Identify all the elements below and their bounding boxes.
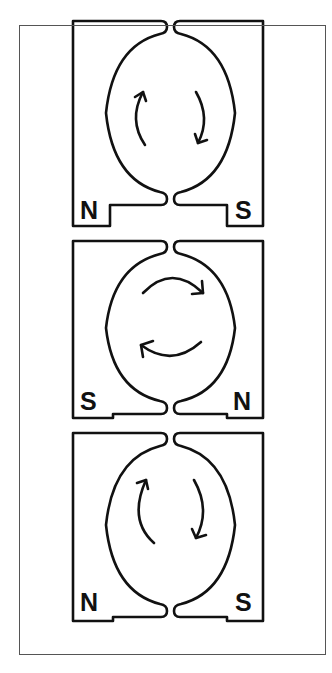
stage2-left-label: S xyxy=(80,387,97,415)
stage3-right-label: S xyxy=(235,588,252,616)
stage3-arrow-down xyxy=(194,480,203,538)
stage3-left-label: N xyxy=(80,588,98,616)
stage2-right-label: N xyxy=(233,387,251,415)
stage2-arrow-right xyxy=(143,278,203,293)
stage1-arrow-down xyxy=(196,92,204,143)
stage1-left-label: N xyxy=(80,196,98,224)
diagram-border xyxy=(20,26,326,655)
stage1-arrow-up xyxy=(136,92,145,145)
stage2-arrow-left xyxy=(141,342,201,356)
stage1-right-label: S xyxy=(235,196,252,224)
motor-diagram: N S S N N S xyxy=(0,0,332,673)
stage3-arrow-up xyxy=(139,480,154,543)
